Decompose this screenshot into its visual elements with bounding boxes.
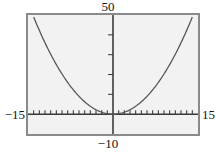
x-min-label: −15 [0,108,25,121]
graph-screenshot: 50 −10 −15 15 [0,0,216,152]
y-max-label: 50 [0,0,216,13]
plot-frame [26,13,200,136]
x-max-label: 15 [202,108,215,121]
y-min-label: −10 [0,137,216,150]
plot-canvas [28,15,198,134]
